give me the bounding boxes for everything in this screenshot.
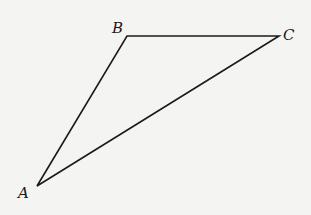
- vertex-label-c: C: [283, 26, 295, 44]
- triangle-abc: [37, 36, 279, 186]
- triangle-svg: A B C: [0, 0, 311, 215]
- triangle-diagram: A B C: [0, 0, 311, 215]
- vertex-label-a: A: [16, 184, 29, 202]
- vertex-label-b: B: [111, 19, 123, 37]
